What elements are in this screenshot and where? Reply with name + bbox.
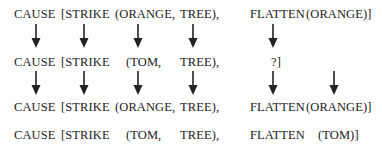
- token-tree: TREE),: [180, 128, 219, 142]
- token-cause: CAUSE: [14, 100, 55, 114]
- token-flatten: FLATTEN: [250, 100, 305, 114]
- token-tom: (TOM,: [126, 128, 161, 142]
- down-arrow-icon: [78, 71, 90, 95]
- token-tree: TREE),: [180, 7, 219, 21]
- down-arrow-icon: [132, 24, 144, 48]
- token-orange-close: (ORANGE)]: [306, 100, 371, 114]
- down-arrow-icon: [328, 71, 340, 95]
- down-arrow-icon: [78, 24, 90, 48]
- token-cause: CAUSE: [14, 128, 55, 142]
- token-cause: CAUSE: [14, 55, 55, 69]
- token-flatten: FLATTEN: [250, 7, 305, 21]
- token-tom-close: (TOM)]: [318, 128, 359, 142]
- token-cause: CAUSE: [14, 7, 55, 21]
- token-unknown: ?]: [271, 55, 281, 69]
- down-arrow-icon: [30, 71, 42, 95]
- down-arrow-icon: [30, 24, 42, 48]
- token-strike: [STRIKE: [61, 128, 110, 142]
- token-strike: [STRIKE: [61, 7, 110, 21]
- down-arrow-icon: [132, 71, 144, 95]
- token-tree: TREE),: [180, 55, 219, 69]
- token-strike: [STRIKE: [61, 55, 110, 69]
- token-tree: TREE),: [180, 100, 219, 114]
- down-arrow-icon: [187, 71, 199, 95]
- token-orange: (ORANGE,: [115, 7, 175, 21]
- token-flatten: FLATTEN: [250, 128, 305, 142]
- token-orange-close: (ORANGE)]: [306, 7, 371, 21]
- token-orange: (ORANGE,: [115, 100, 175, 114]
- down-arrow-icon: [187, 24, 199, 48]
- down-arrow-icon: [267, 24, 279, 48]
- token-tom: (TOM,: [126, 55, 161, 69]
- down-arrow-icon: [267, 71, 279, 95]
- token-strike: [STRIKE: [61, 100, 110, 114]
